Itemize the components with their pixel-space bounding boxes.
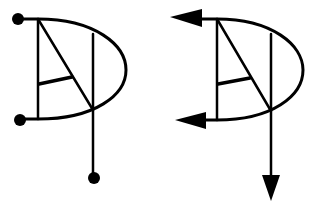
diagonal-line [38, 19, 93, 110]
diagram-canvas [0, 0, 314, 212]
crossbar-line [218, 78, 250, 84]
bottom-left-dot-terminal [14, 114, 26, 126]
arrow-down-icon [262, 175, 280, 201]
top-dot-terminal [12, 13, 24, 25]
diagonal-line [217, 19, 271, 111]
symbol-with-dot-terminals [12, 13, 126, 184]
arrow-left-icon [175, 112, 206, 129]
bottom-dot-terminal [88, 172, 100, 184]
arrow-left-icon [170, 9, 202, 27]
crossbar-line [39, 77, 72, 84]
symbol-with-arrow-terminals [170, 9, 303, 201]
d-shaped-arc [200, 19, 303, 120]
